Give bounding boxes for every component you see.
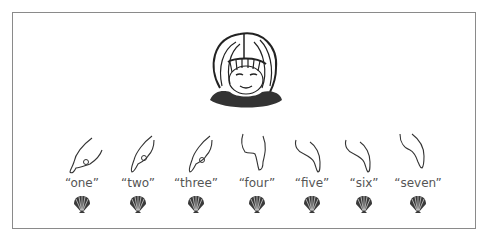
scallop-shell-icon (354, 195, 374, 214)
pointing-hand-icon (62, 136, 106, 176)
pointing-hand-icon (396, 132, 440, 172)
count-label-three: “three” (174, 176, 218, 190)
count-label-two: “two” (121, 176, 155, 190)
scallop-shell-icon (186, 195, 206, 214)
scallop-shell-icon (72, 195, 92, 214)
pointing-hand-icon (118, 134, 162, 174)
count-label-six: “six” (349, 176, 378, 190)
pointing-hand-icon (176, 134, 220, 174)
scallop-shell-icon (302, 195, 322, 214)
scallop-shell-icon (408, 195, 428, 214)
pointing-hand-icon (292, 136, 336, 176)
pointing-hand-icon (237, 132, 281, 172)
pointing-hand-icon (342, 136, 386, 176)
count-label-one: “one” (65, 176, 99, 190)
count-label-four: “four” (239, 176, 276, 190)
scallop-shell-icon (128, 195, 148, 214)
count-label-five: “five” (295, 176, 329, 190)
scallop-shell-icon (247, 195, 267, 214)
count-label-seven: “seven” (394, 176, 442, 190)
child-face-icon (200, 28, 290, 110)
